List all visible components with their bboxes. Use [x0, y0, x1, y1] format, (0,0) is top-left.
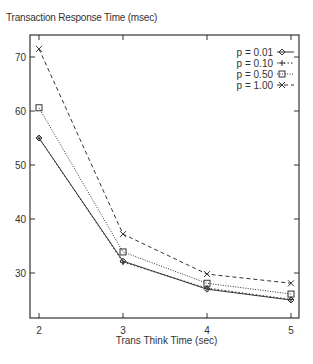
square-marker-icon — [120, 249, 126, 255]
y-tick-label: 70 — [15, 52, 27, 63]
x-axis-label: Trans Think Time (sec) — [0, 335, 313, 346]
x-marker-icon — [36, 46, 42, 52]
plus-marker-icon — [36, 135, 42, 141]
y-tick-label: 60 — [15, 106, 27, 117]
y-tick-label: 40 — [15, 214, 27, 225]
series-line — [39, 138, 291, 300]
x-marker-icon — [120, 231, 126, 237]
series-p050 — [36, 105, 294, 297]
legend-label: p = 1.00 — [237, 80, 274, 91]
y-tick-label: 50 — [15, 160, 27, 171]
legend-label: p = 0.10 — [237, 58, 274, 69]
x-marker-icon — [204, 271, 210, 277]
series-line — [39, 108, 291, 294]
y-tick-label: 30 — [15, 268, 27, 279]
line-chart: 30405060702345 p = 0.01p = 0.10p = 0.50p… — [0, 0, 313, 364]
legend-label: p = 0.50 — [237, 69, 274, 80]
legend: p = 0.01p = 0.10p = 0.50p = 1.00 — [237, 47, 294, 91]
series-p010 — [36, 135, 294, 302]
plus-marker-icon — [279, 60, 285, 66]
legend-label: p = 0.01 — [237, 47, 274, 58]
square-marker-icon — [288, 291, 294, 297]
series-p001 — [36, 135, 294, 303]
series-line — [39, 138, 291, 299]
